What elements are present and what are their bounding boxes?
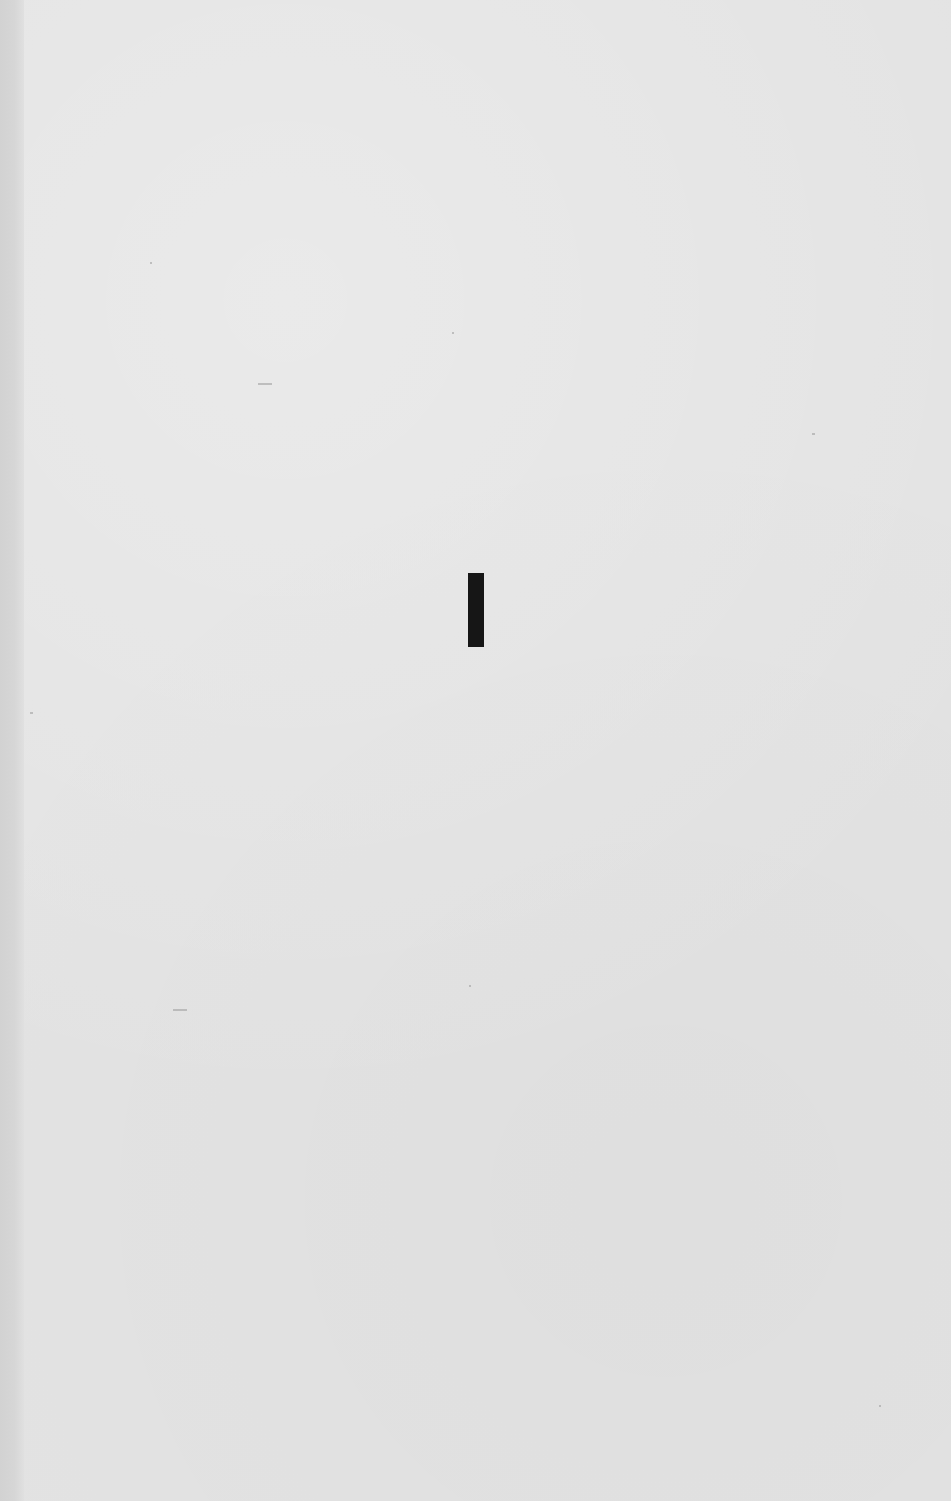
binding-shadow — [0, 0, 24, 1501]
document-page: I — [0, 0, 951, 1501]
section-numeral: I — [449, 556, 503, 666]
scan-speck — [879, 1405, 881, 1407]
scan-speck — [469, 985, 471, 987]
scan-speck — [173, 1009, 187, 1011]
scan-speck — [452, 332, 454, 334]
scan-speck — [150, 262, 152, 264]
scan-speck — [812, 433, 815, 435]
scan-speck — [30, 712, 33, 714]
scan-speck — [258, 383, 272, 385]
